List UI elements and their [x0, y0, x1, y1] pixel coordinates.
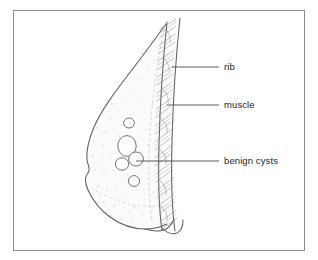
cyst-pair-right: [129, 152, 144, 166]
benign-cysts-label: benign cysts: [224, 155, 278, 166]
annotation-rib[interactable]: rib: [172, 61, 235, 72]
figure-root: rib muscle benign cysts: [0, 0, 318, 260]
breast-cross-section-diagram: rib muscle benign cysts: [0, 0, 318, 260]
rib-label: rib: [224, 61, 235, 72]
cyst-small-upper: [124, 118, 135, 128]
cyst-small-lower: [128, 176, 139, 187]
muscle-label: muscle: [224, 99, 255, 110]
chest-wall-posterior-line: [172, 18, 180, 231]
cyst-pair-left: [115, 158, 128, 170]
annotation-muscle[interactable]: muscle: [167, 99, 255, 110]
